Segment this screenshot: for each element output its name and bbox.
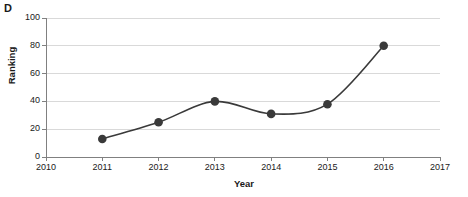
chart-figure: D Ranking Year 020406080100 201020112012… <box>0 0 468 197</box>
data-point-2012 <box>154 118 163 127</box>
data-point-2014 <box>267 110 276 119</box>
data-line <box>102 46 383 139</box>
data-point-2013 <box>211 97 220 106</box>
plot-area <box>0 0 468 197</box>
data-point-2011 <box>98 135 107 144</box>
gridlines <box>46 18 440 129</box>
data-point-2016 <box>379 42 388 51</box>
data-point-2015 <box>323 100 332 109</box>
